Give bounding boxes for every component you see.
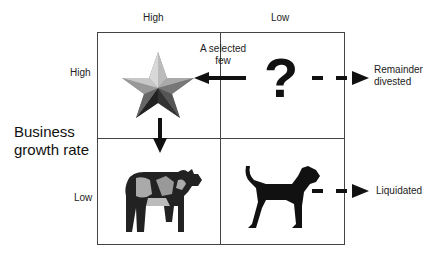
row-axis-label: Business growth rate	[14, 123, 89, 159]
matrix-horizontal-divider	[97, 138, 345, 139]
column-header-high: High	[143, 12, 164, 23]
liquidated-label: Liquidated	[376, 185, 422, 196]
selected-few-line1: A selected	[193, 43, 253, 55]
remainder-divested-label: Remainder divested	[374, 64, 423, 88]
axis-label-line1: Business	[14, 123, 89, 141]
column-header-low: Low	[271, 12, 289, 23]
row-header-low: Low	[74, 192, 92, 203]
remainder-line1: Remainder	[374, 64, 423, 76]
dashed-arrow-right-icon-2	[312, 183, 370, 199]
question-mark-icon: ?	[264, 50, 298, 106]
selected-few-line2: few	[193, 55, 253, 67]
arrow-left-icon	[194, 71, 246, 85]
row-header-high: High	[70, 67, 91, 78]
selected-few-label: A selected few	[193, 43, 253, 67]
star-icon	[122, 50, 194, 120]
dashed-arrow-right-icon	[312, 70, 370, 86]
axis-label-line2: growth rate	[14, 141, 89, 159]
arrow-down-icon	[152, 118, 168, 154]
cow-icon	[122, 166, 204, 236]
remainder-line2: divested	[374, 76, 423, 88]
